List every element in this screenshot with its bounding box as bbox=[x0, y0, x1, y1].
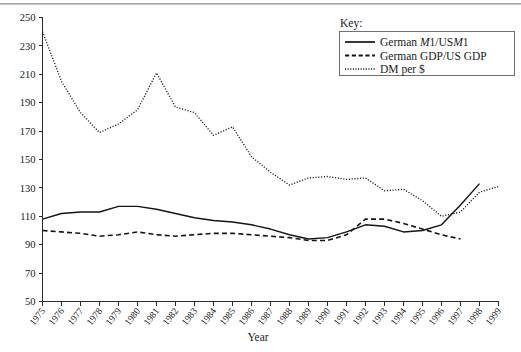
x-axis-tick-label: 1983 bbox=[180, 306, 200, 327]
y-axis-tick-label: 190 bbox=[20, 97, 36, 108]
y-axis-tick-label: 230 bbox=[20, 41, 36, 52]
legend-title: Key: bbox=[340, 17, 362, 30]
legend-label-2: German GDP/US GDP bbox=[380, 50, 487, 62]
x-axis-tick-label: 1993 bbox=[370, 306, 390, 327]
x-axis-tick-label: 1990 bbox=[313, 306, 333, 327]
y-axis: 507090110130150170190210230250 bbox=[20, 12, 43, 307]
y-axis-tick-label: 70 bbox=[25, 268, 36, 279]
x-axis-tick-label: 1994 bbox=[389, 306, 409, 327]
y-axis-tick-label: 150 bbox=[20, 154, 36, 165]
x-axis-tick-label: 1997 bbox=[446, 306, 466, 327]
x-axis-tick-label: 1975 bbox=[28, 306, 48, 327]
x-axis-tick-label: 1988 bbox=[275, 306, 295, 327]
x-axis-tick-label: 1977 bbox=[66, 306, 86, 327]
y-axis-tick-label: 130 bbox=[20, 183, 36, 194]
x-axis-tick-label: 1986 bbox=[237, 306, 257, 327]
legend-label-3: DM per $ bbox=[380, 63, 425, 76]
x-axis-tick-label: 1999 bbox=[484, 306, 504, 327]
x-axis-tick-label: 1987 bbox=[256, 306, 276, 327]
x-axis-tick-label: 1998 bbox=[465, 306, 485, 327]
y-axis-tick-label: 90 bbox=[25, 239, 36, 250]
x-axis-tick-label: 1984 bbox=[199, 306, 219, 327]
y-axis-tick-label: 250 bbox=[20, 12, 36, 23]
x-axis-tick-label: 1980 bbox=[123, 306, 143, 327]
x-axis-tick-label: 1992 bbox=[351, 306, 371, 327]
chart-figure: 507090110130150170190210230250 197519761… bbox=[0, 0, 521, 352]
x-axis-tick-label: 1989 bbox=[294, 306, 314, 327]
series-line-1 bbox=[43, 184, 480, 239]
x-axis-tick-label: 1985 bbox=[218, 306, 238, 327]
y-axis-tick-label: 170 bbox=[20, 126, 36, 137]
x-axis-tick-label: 1981 bbox=[142, 306, 162, 327]
x-axis-tick-label: 1976 bbox=[47, 306, 67, 327]
legend-label-1: German M1/USM1 bbox=[380, 36, 469, 48]
y-axis-tick-label: 210 bbox=[20, 69, 36, 80]
chart-legend: Key:German M1/USM1German GDP/US GDPDM pe… bbox=[339, 17, 514, 77]
y-axis-tick-label: 50 bbox=[25, 296, 36, 307]
line-chart-canvas: 507090110130150170190210230250 197519761… bbox=[0, 0, 521, 352]
x-axis-tick-label: 1982 bbox=[161, 306, 181, 327]
x-axis-tick-label: 1991 bbox=[332, 306, 352, 327]
x-axis-title: Year bbox=[247, 331, 268, 343]
y-axis-tick-label: 110 bbox=[20, 211, 35, 222]
x-axis-tick-label: 1979 bbox=[104, 306, 124, 327]
x-axis-tick-label: 1978 bbox=[85, 306, 105, 327]
x-axis: 1975197619771978197919801981198219831984… bbox=[28, 302, 504, 328]
x-axis-tick-label: 1996 bbox=[427, 306, 447, 327]
x-axis-tick-label: 1995 bbox=[408, 306, 428, 327]
